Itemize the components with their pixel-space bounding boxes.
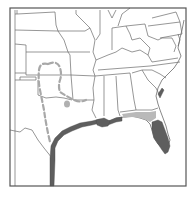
isolated-range-spot xyxy=(64,101,70,108)
state-boundaries xyxy=(10,8,184,186)
dashed-range-outline xyxy=(39,63,86,142)
secondary-range xyxy=(122,111,156,122)
range-map xyxy=(0,0,194,197)
map-canvas xyxy=(0,0,194,197)
